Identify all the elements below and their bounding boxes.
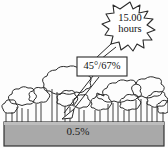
- angle-percent-label: 45°/67%: [79, 60, 125, 71]
- ground-percent-label: 0.5%: [48, 126, 108, 138]
- sun-duration-value: 15.00: [118, 12, 142, 23]
- sun-duration-label: 15.00 hours: [108, 12, 152, 34]
- sun-duration-unit: hours: [108, 23, 152, 34]
- tree-canopy-icon-right-stand: [91, 77, 168, 124]
- forest-light-diagram: 15.00 hours 45°/67% 0.5%: [0, 0, 168, 148]
